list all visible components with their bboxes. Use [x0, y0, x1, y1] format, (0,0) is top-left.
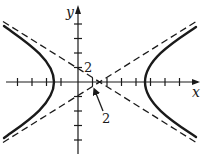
y-axis-arrow-icon [75, 5, 81, 14]
y-axis [74, 5, 82, 154]
y-axis-label: y [65, 4, 75, 20]
x-axis-label: x [192, 84, 200, 100]
center-label: 2 [102, 111, 110, 126]
pointer-arrow [95, 91, 103, 111]
hyperbola-diagram: y x 2 2 [0, 0, 207, 157]
y-intercept-label: 2 [84, 60, 92, 75]
x-axis [6, 78, 200, 86]
